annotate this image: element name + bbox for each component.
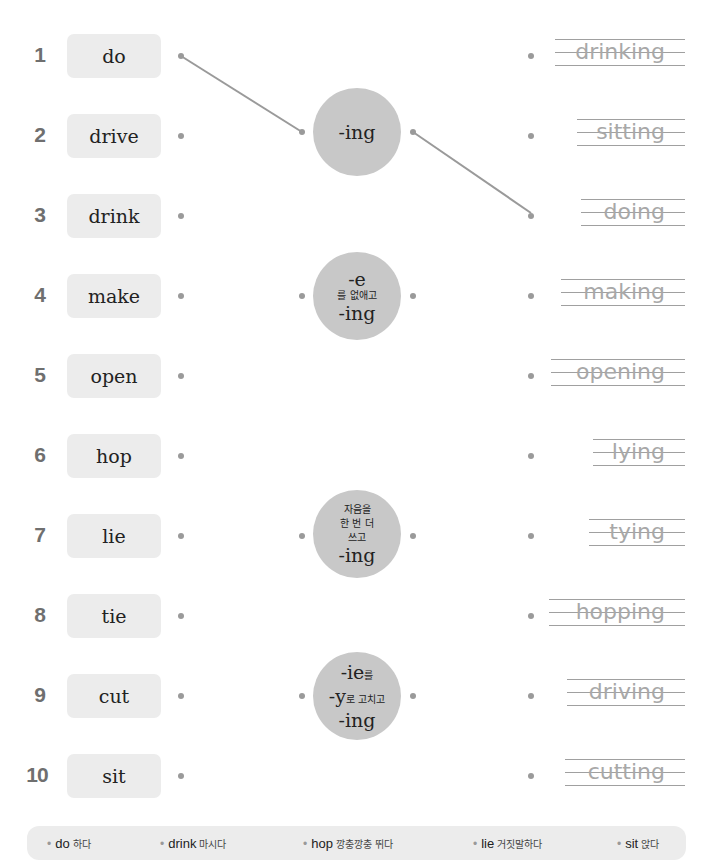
- word-box-sit: sit: [67, 754, 161, 798]
- answer-text: cutting: [588, 757, 665, 787]
- rule-line: 쓰고: [348, 531, 366, 545]
- rule-ie-to-y-right-dot[interactable]: [410, 693, 416, 699]
- word-dot-9[interactable]: [178, 693, 184, 699]
- rule-ing-left-dot[interactable]: [299, 129, 305, 135]
- vocab-item-hop: •hop깡충깡충 뛰다: [303, 836, 393, 851]
- answer-trace-hopping: hopping: [549, 593, 685, 639]
- rule-drop-e-right-dot[interactable]: [410, 293, 416, 299]
- exercise-row-3: 3 drink doing: [0, 191, 715, 241]
- answer-dot-3[interactable]: [528, 213, 534, 219]
- rule-circle-drop-e: -e 를 없애고 -ing: [313, 252, 401, 340]
- vocab-item-lie: •lie거짓말하다: [473, 836, 542, 851]
- answer-trace-tying: tying: [589, 513, 685, 559]
- word-box-drink: drink: [67, 194, 161, 238]
- rule-drop-e-left-dot[interactable]: [299, 293, 305, 299]
- answer-dot-10[interactable]: [528, 773, 534, 779]
- word-box-open: open: [67, 354, 161, 398]
- answer-text: opening: [576, 357, 665, 387]
- answer-text: hopping: [576, 597, 665, 627]
- row-number: 2: [22, 123, 58, 147]
- row-number: 10: [19, 763, 55, 787]
- rule-line: -ie를: [341, 662, 374, 686]
- word-box-cut: cut: [67, 674, 161, 718]
- rule-ie-to-y-left-dot[interactable]: [299, 693, 305, 699]
- rule-line: 한 번 더: [340, 517, 373, 531]
- vocab-item-drink: •drink마시다: [160, 836, 226, 851]
- answer-dot-4[interactable]: [528, 293, 534, 299]
- exercise-row-1: 1 do drinking: [0, 31, 715, 81]
- rule-circle-ing: -ing: [313, 88, 401, 176]
- word-box-make: make: [67, 274, 161, 318]
- row-number: 1: [22, 43, 58, 67]
- answer-text: driving: [589, 677, 665, 707]
- answer-trace-lying: lying: [593, 433, 685, 479]
- word-box-tie: tie: [67, 594, 161, 638]
- rule-line: 를 없애고: [337, 289, 376, 303]
- rule-line: -y로 고치고: [329, 686, 385, 710]
- exercise-row-6: 6 hop lying: [0, 431, 715, 481]
- answer-trace-drinking: drinking: [555, 33, 685, 79]
- word-box-hop: hop: [67, 434, 161, 478]
- rule-double-consonant-left-dot[interactable]: [299, 533, 305, 539]
- answer-trace-doing: doing: [581, 193, 685, 239]
- answer-trace-driving: driving: [567, 673, 685, 719]
- row-number: 3: [22, 203, 58, 227]
- row-number: 9: [22, 683, 58, 707]
- answer-dot-7[interactable]: [528, 533, 534, 539]
- row-number: 5: [22, 363, 58, 387]
- word-dot-10[interactable]: [178, 773, 184, 779]
- answer-dot-1[interactable]: [528, 53, 534, 59]
- rule-line: -ing: [339, 710, 376, 730]
- answer-text: sitting: [596, 117, 665, 147]
- answer-trace-sitting: sitting: [577, 113, 685, 159]
- vocab-item-sit: •sit앉다: [617, 836, 659, 851]
- answer-text: lying: [612, 437, 665, 467]
- word-dot-8[interactable]: [178, 613, 184, 619]
- rule-line: -e: [348, 269, 366, 289]
- answer-text: drinking: [575, 37, 665, 67]
- exercise-row-10: 10 sit cutting: [0, 751, 715, 801]
- word-dot-4[interactable]: [178, 293, 184, 299]
- vocab-item-do: •do하다: [47, 836, 91, 851]
- answer-trace-making: making: [561, 273, 685, 319]
- row-number: 8: [22, 603, 58, 627]
- row-number: 7: [22, 523, 58, 547]
- rule-double-consonant-right-dot[interactable]: [410, 533, 416, 539]
- word-dot-1[interactable]: [178, 53, 184, 59]
- word-dot-3[interactable]: [178, 213, 184, 219]
- word-box-lie: lie: [67, 514, 161, 558]
- word-dot-7[interactable]: [178, 533, 184, 539]
- answer-dot-9[interactable]: [528, 693, 534, 699]
- row-number: 4: [22, 283, 58, 307]
- answer-dot-2[interactable]: [528, 133, 534, 139]
- word-dot-2[interactable]: [178, 133, 184, 139]
- answer-text: doing: [604, 197, 665, 227]
- rule-text: -ing: [339, 122, 376, 142]
- rule-line: 자음을: [344, 503, 371, 517]
- answer-trace-cutting: cutting: [565, 753, 685, 799]
- word-dot-5[interactable]: [178, 373, 184, 379]
- rule-circle-double-consonant: 자음을 한 번 더 쓰고 -ing: [313, 490, 401, 578]
- rule-circle-ie-to-y: -ie를 -y로 고치고 -ing: [313, 652, 401, 740]
- rule-line: -ing: [339, 545, 376, 565]
- exercise-row-8: 8 tie hopping: [0, 591, 715, 641]
- word-box-do: do: [67, 34, 161, 78]
- answer-text: tying: [609, 517, 665, 547]
- word-box-drive: drive: [67, 114, 161, 158]
- answer-text: making: [583, 277, 665, 307]
- exercise-row-5: 5 open opening: [0, 351, 715, 401]
- rule-ing-right-dot[interactable]: [410, 129, 416, 135]
- row-number: 6: [22, 443, 58, 467]
- answer-trace-opening: opening: [551, 353, 685, 399]
- answer-dot-6[interactable]: [528, 453, 534, 459]
- word-dot-6[interactable]: [178, 453, 184, 459]
- answer-dot-5[interactable]: [528, 373, 534, 379]
- rule-line: -ing: [339, 303, 376, 323]
- vocabulary-bar: •do하다 •drink마시다 •hop깡충깡충 뛰다 •lie거짓말하다 •s…: [27, 826, 686, 860]
- answer-dot-8[interactable]: [528, 613, 534, 619]
